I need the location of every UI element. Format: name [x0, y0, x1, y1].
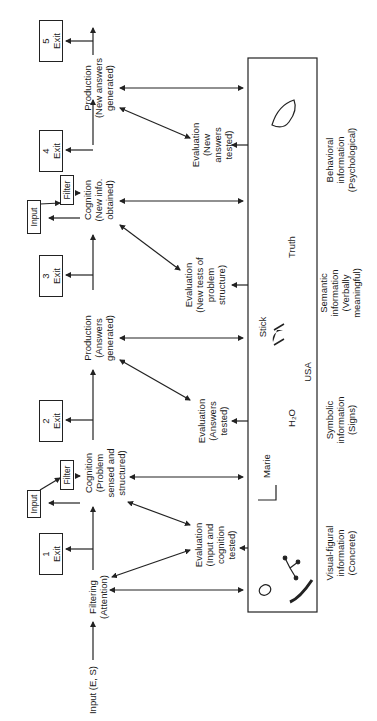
diagram-lines [0, 0, 377, 721]
memory-item-stick: Stick [257, 317, 268, 338]
stage-filtering: Filtering(Attention) [87, 575, 109, 619]
exit-5-label: 5Exit [40, 33, 62, 49]
evaluation-1: Evaluation(Input and cognition tested) [193, 513, 237, 577]
stage-cognition-2: Cognition(New info. obtained) [82, 169, 115, 231]
info-type-visual-figural: Visual-figuralinformation(Concrete) [324, 526, 357, 581]
evaluation-2: Evaluation(Answers tested) [196, 396, 229, 446]
angle-glyph [258, 485, 276, 500]
exit-4-label: 4Exit [40, 143, 62, 159]
input-es-label: Input (E, S) [87, 666, 98, 714]
exit-2-label: 2Exit [40, 413, 62, 429]
memory-item-usa: USA [302, 362, 313, 382]
stage-cognition-1: Cognition(Problem sensed and structured) [83, 438, 127, 508]
info-type-semantic: Semanticinformation(Verbally meaningful) [318, 261, 362, 325]
memory-item-truth: Truth [286, 236, 297, 258]
memory-item-marie: Marie [261, 454, 272, 478]
evaluation-4: Evaluation(New answers tested) [190, 118, 234, 172]
exit-3-label: 3Exit [40, 268, 62, 284]
info-type-behavioral: Behavioralinformation(Psychological) [324, 128, 357, 192]
stage-production-2: Production(New answers generated) [82, 57, 115, 119]
memory-item-h2o: H₂O [286, 409, 297, 427]
input-box-2-label: Input [29, 208, 40, 227]
info-type-symbolic: Symbolicinformation(Signs) [324, 397, 357, 444]
evaluation-3: Evaluation(New tests of problem structur… [183, 254, 227, 316]
problem-solving-model-diagram: 1Exit 2Exit 3Exit 4Exit 5Exit Input Filt… [0, 0, 377, 721]
exit-1-label: 1Exit [40, 546, 62, 562]
filter-box-2-label: Filter [62, 181, 73, 200]
stage-production-1: Production(Answers generated) [82, 307, 115, 369]
input-box-1-label: Input [29, 495, 40, 514]
filter-box-1-label: Filter [62, 466, 73, 485]
